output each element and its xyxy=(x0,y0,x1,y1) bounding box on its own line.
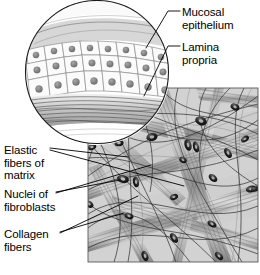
label-nuclei-of-fibroblasts: Nuclei of fibroblasts xyxy=(4,188,55,213)
epithelial-cells xyxy=(26,41,172,100)
label-mucosal-epithelium: Mucosal epithelium xyxy=(182,6,233,31)
histology-figure: Mucosal epithelium Lamina propria Elasti… xyxy=(0,0,260,275)
label-elastic-fibers: Elastic fibers of matrix xyxy=(4,144,44,182)
label-lamina-propria: Lamina propria xyxy=(182,41,219,66)
label-collagen-fibers: Collagen fibers xyxy=(4,228,49,253)
